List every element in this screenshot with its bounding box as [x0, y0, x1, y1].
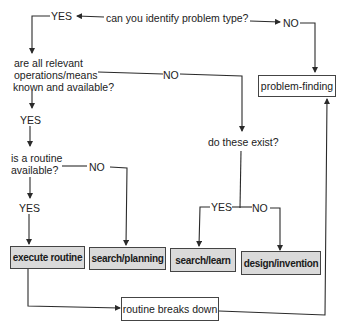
connector-relevant-to-no	[98, 72, 163, 74]
box-search-planning-label: search/planning	[91, 253, 163, 264]
label-identify-no: NO	[283, 17, 299, 29]
box-design-invention-label: design/invention	[244, 258, 319, 269]
label-relevant-no: NO	[163, 69, 179, 81]
box-execute-routine-label: execute routine	[13, 252, 82, 263]
label-exist-yes: YES	[211, 201, 232, 213]
connector-identify-to-no	[250, 21, 280, 22]
box-search-learn-label: search/learn	[175, 255, 230, 266]
box-execute-routine: execute routine	[10, 246, 85, 269]
question-relevant-operations-line3: known and available?	[13, 81, 114, 93]
connector-exist-to-split	[240, 151, 241, 208]
box-search-planning: search/planning	[89, 247, 166, 270]
label-exist-no: NO	[252, 202, 268, 214]
box-search-learn: search/learn	[170, 248, 236, 272]
connector-no-to-exist	[180, 74, 242, 131]
question-relevant-operations-line2: operations/means	[14, 69, 97, 81]
box-routine-breaks-down-label: routine breaks down	[123, 303, 218, 315]
label-identify-yes: YES	[51, 10, 72, 22]
question-relevant-operations-line1: are all relevant	[14, 57, 83, 69]
box-problem-finding: problem-finding	[258, 75, 336, 97]
connector-yes-to-relevant	[32, 16, 50, 53]
connector-execute-to-breakdown	[28, 268, 120, 308]
connector-identify-to-yes	[77, 16, 104, 17]
question-routine-available-line1: is a routine	[11, 152, 62, 164]
connector-yes-to-search-learn	[199, 207, 210, 246]
question-routine-available-line2: available?	[11, 164, 58, 176]
question-do-these-exist: do these exist?	[208, 136, 279, 148]
question-identify-problem-type: can you identify problem type?	[106, 12, 248, 24]
box-problem-finding-label: problem-finding	[261, 80, 333, 92]
connector-no-to-problem-finding	[300, 23, 315, 72]
connector-no-to-design	[270, 208, 280, 250]
box-design-invention: design/invention	[241, 251, 321, 275]
label-relevant-yes: YES	[20, 114, 41, 126]
label-routine-yes: YES	[19, 202, 40, 214]
label-routine-no: NO	[89, 161, 105, 173]
connector-no-to-search-planning	[110, 167, 127, 245]
box-routine-breaks-down: routine breaks down	[121, 297, 219, 321]
